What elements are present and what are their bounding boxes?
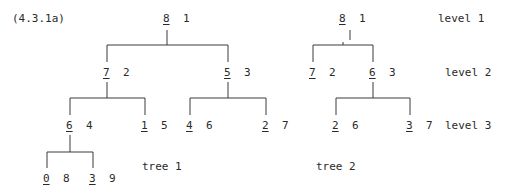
tree2-node-6: 2 6: [332, 120, 359, 132]
node-key: 4: [186, 119, 193, 132]
node-key: 3: [89, 172, 96, 185]
tree1-node-2: 7 2: [103, 67, 130, 79]
tree2-node-1: 8 1: [339, 13, 366, 25]
node-index: 8: [63, 172, 70, 185]
node-index: 7: [282, 119, 289, 132]
tree2-node-7: 3 7: [406, 120, 433, 132]
tree2-caption: tree 2: [316, 161, 356, 173]
node-key: 5: [224, 66, 231, 79]
tree1-node-9: 3 9: [89, 173, 116, 185]
tree1-node-4: 6 4: [66, 120, 93, 132]
node-key: 8: [339, 12, 346, 25]
node-key: 7: [309, 66, 316, 79]
tree1-node-5: 1 5: [141, 120, 168, 132]
node-index: 2: [329, 66, 336, 79]
tree1-caption: tree 1: [142, 161, 182, 173]
level-label-2: level 2: [445, 67, 491, 79]
node-index: 9: [109, 172, 116, 185]
tree1-node-6: 4 6: [186, 120, 213, 132]
node-key: 6: [369, 66, 376, 79]
node-key: 3: [406, 119, 413, 132]
tree2-node-3: 6 3: [369, 67, 396, 79]
level-label-3: level 3: [445, 120, 491, 132]
node-index: 4: [86, 119, 93, 132]
node-key: 2: [332, 119, 339, 132]
node-key: 0: [43, 172, 50, 185]
tree-diagram: (4.3.1a) 8 1 7 2 5 3 6 4 1 5 4 6 2 7 0 8…: [0, 0, 508, 194]
node-index: 1: [183, 12, 190, 25]
node-key: 7: [103, 66, 110, 79]
node-index: 1: [359, 12, 366, 25]
level-label-1: level 1: [438, 13, 484, 25]
node-index: 3: [244, 66, 251, 79]
tree1-node-8: 0 8: [43, 173, 70, 185]
node-index: 5: [161, 119, 168, 132]
node-key: 8: [163, 12, 170, 25]
figure-label: (4.3.1a): [12, 13, 65, 25]
tree1-node-7: 2 7: [262, 120, 289, 132]
tree1-node-3: 5 3: [224, 67, 251, 79]
tree-edges: [0, 0, 508, 194]
node-index: 3: [389, 66, 396, 79]
node-index: 7: [426, 119, 433, 132]
tree2-node-2: 7 2: [309, 67, 336, 79]
node-key: 6: [66, 119, 73, 132]
node-key: 2: [262, 119, 269, 132]
node-index: 2: [123, 66, 130, 79]
node-index: 6: [352, 119, 359, 132]
node-key: 1: [141, 119, 148, 132]
tree1-node-1: 8 1: [163, 13, 190, 25]
node-index: 6: [206, 119, 213, 132]
